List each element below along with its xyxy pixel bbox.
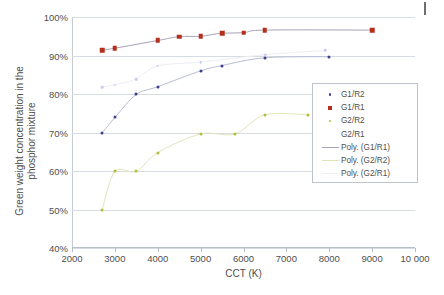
legend-key-icon [319,106,341,110]
x-tick [244,248,245,252]
legend-item[interactable]: Poly. (G2/R1) [319,167,413,180]
x-tick-label: 10 000 [400,253,429,264]
x-tick [72,248,73,252]
x-tick [372,248,373,252]
x-tick-label: 6000 [233,253,254,264]
y-axis-title: Green weight concentration in the phosph… [14,31,38,251]
data-point-g2-r2 [306,113,309,116]
legend-label: Poly. (G2/R2) [341,156,390,165]
trendline-g2-r2 [102,113,308,210]
data-point-g2-r2 [101,209,104,212]
x-axis-title: CCT (K) [72,268,415,279]
legend-line-icon [322,160,339,161]
data-point-g1-r2 [156,85,159,88]
x-tick-label: 8000 [319,253,340,264]
x-tick-label: 2000 [61,253,82,264]
x-tick [415,248,416,252]
legend-dot-icon [329,120,332,123]
data-point-g1-r1 [220,31,225,36]
y-axis-title-line1: Green weight concentration in the [14,31,26,251]
x-tick [201,248,202,252]
trendline-g2-r1 [102,51,325,88]
legend-key-icon [319,160,341,161]
legend-key-icon [319,147,341,148]
data-point-g2-r1 [135,78,138,81]
data-point-g1-r2 [263,56,266,59]
data-point-g2-r1 [114,83,117,86]
y-tick-label: 90% [34,50,68,61]
data-point-g1-r1 [198,34,203,39]
data-point-g1-r2 [135,93,138,96]
legend-item[interactable]: Poly. (G1/R1) [319,141,413,154]
legend-item[interactable]: G2/R1 [319,128,413,141]
x-tick [286,248,287,252]
data-point-g2-r2 [113,170,116,173]
y-tick-label: 50% [34,204,68,215]
data-point-g1-r2 [101,131,104,134]
data-point-g1-r1 [177,34,182,39]
data-point-g2-r1 [264,53,267,56]
data-point-g1-r2 [221,64,224,67]
data-point-g1-r1 [156,38,161,43]
data-point-g2-r2 [233,133,236,136]
x-tick [115,248,116,252]
page-corner-mark [424,2,426,15]
legend-label: G2/R1 [341,130,365,139]
data-point-g2-r2 [156,151,159,154]
x-tick [158,248,159,252]
data-point-g2-r1 [324,49,327,52]
data-point-g1-r1 [113,46,118,51]
legend-line-icon [322,147,339,148]
legend-key-icon [319,93,341,96]
data-point-g1-r1 [263,28,268,33]
x-tick-label: 7000 [276,253,297,264]
y-axis-title-line2: phosphor mixture [26,31,38,251]
legend-label: Poly. (G1/R1) [341,143,390,152]
legend-key-icon [319,120,341,123]
y-tick-label: 40% [34,243,68,254]
legend: G1/R2G1/R1G2/R2G2/R1Poly. (G1/R1)Poly. (… [312,83,418,183]
x-tick [329,248,330,252]
x-tick-label: 4000 [147,253,168,264]
y-tick-label: 100% [34,12,68,23]
legend-item[interactable]: Poly. (G2/R2) [319,154,413,167]
chart-figure: Green weight concentration in the phosph… [0,0,444,295]
legend-item[interactable]: G1/R2 [319,88,413,101]
x-tick-label: 9000 [362,253,383,264]
data-point-g1-r2 [199,69,202,72]
legend-item[interactable]: G1/R1 [319,101,413,114]
y-tick-label: 60% [34,166,68,177]
legend-label: G2/R2 [341,116,365,125]
legend-label: G1/R2 [341,90,365,99]
data-point-g1-r2 [328,55,331,58]
legend-dot-icon [329,93,332,96]
data-point-g1-r1 [241,31,246,36]
data-point-g2-r1 [101,86,104,89]
trendline-g1-r1 [102,30,372,50]
x-tick-label: 5000 [190,253,211,264]
legend-label: Poly. (G2/R1) [341,169,390,178]
legend-line-icon [322,173,339,174]
data-point-g2-r1 [156,65,159,68]
data-point-g1-r1 [100,48,105,53]
y-tick-label: 70% [34,127,68,138]
legend-key-icon [319,173,341,174]
data-point-g2-r2 [199,133,202,136]
data-point-g1-r1 [370,28,375,33]
legend-item[interactable]: G2/R2 [319,114,413,127]
data-point-g2-r2 [135,170,138,173]
legend-label: G1/R1 [341,103,365,112]
x-tick-label: 3000 [104,253,125,264]
data-point-g2-r1 [199,61,202,64]
legend-square-icon [328,106,332,110]
data-point-g2-r2 [263,113,266,116]
y-tick-label: 80% [34,89,68,100]
data-point-g1-r2 [113,116,116,119]
